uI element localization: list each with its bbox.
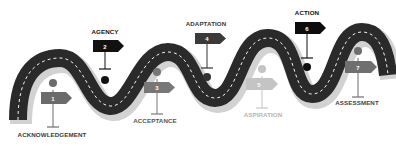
pin-dot-icon xyxy=(49,79,57,87)
step-label: ACKNOWLEDGEMENT xyxy=(18,131,87,138)
step-label: ASSESSMENT xyxy=(335,99,379,106)
arrow-sign-icon xyxy=(295,22,326,34)
arrow-sign-icon xyxy=(345,61,377,73)
pin-dot-icon xyxy=(203,73,211,81)
roadmap-diagram: 1 ACKNOWLEDGEMENT AGENCY 2 3 ACCEPTANCE … xyxy=(0,0,396,146)
arrow-sign-icon xyxy=(246,78,278,90)
step-label: ADAPTATION xyxy=(186,20,227,27)
step-2-signpost: AGENCY 2 xyxy=(91,28,124,84)
step-label: ACTION xyxy=(295,9,320,16)
pin-dot-icon xyxy=(101,76,109,84)
arrow-sign-icon xyxy=(93,40,124,52)
arrow-sign-icon xyxy=(144,82,175,93)
pin-dot-icon xyxy=(354,47,362,55)
pin-dot-icon xyxy=(303,63,311,71)
step-label: ACCEPTANCE xyxy=(133,117,177,124)
arrow-sign-icon xyxy=(41,92,72,104)
pin-dot-icon xyxy=(153,68,161,76)
arrow-sign-icon xyxy=(195,33,226,44)
step-label: ASPIRATION xyxy=(244,111,283,118)
step-label: AGENCY xyxy=(91,28,119,35)
pin-dot-icon xyxy=(258,65,266,73)
